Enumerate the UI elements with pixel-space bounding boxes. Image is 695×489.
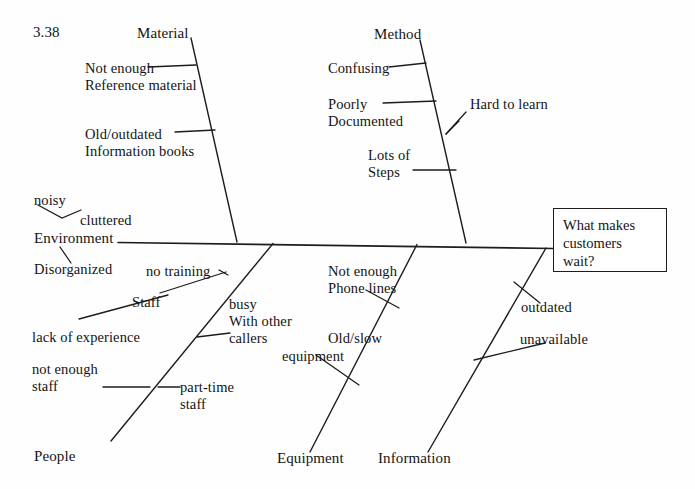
category-label-equipment: Equipment xyxy=(277,450,344,467)
cause-method-poorly-line1: Poorly xyxy=(328,96,367,113)
fishbone-diagram: 3.38 Material Not enough Reference mater… xyxy=(0,0,695,489)
cause-method-lots-of-steps-line1: Lots of xyxy=(368,147,410,164)
category-label-information: Information xyxy=(378,450,451,467)
cause-method-confusing: Confusing xyxy=(328,60,389,77)
category-label-material: Material xyxy=(137,25,189,42)
cause-material-not-enough-line2: Reference material xyxy=(85,77,197,94)
connector-material-not-enough xyxy=(148,65,196,67)
connector-method-confusing xyxy=(389,63,426,67)
cause-environment-cluttered: cluttered xyxy=(80,212,132,229)
cause-people-busy-line2: With other xyxy=(229,313,292,330)
connector-method-poorly xyxy=(383,101,436,103)
effect-box-text: What makes customers wait? xyxy=(563,216,635,270)
cause-method-poorly-line2: Documented xyxy=(328,113,403,130)
cause-equipment-old-slow-line2: equipment xyxy=(282,348,344,365)
cause-people-busy-line1: busy xyxy=(229,296,257,313)
cause-method-lots-of-steps-line2: Steps xyxy=(368,164,400,181)
cause-material-not-enough-line1: Not enough xyxy=(85,60,154,77)
cause-people-not-enough-staff-line2: staff xyxy=(32,378,58,395)
cause-equipment-phone-lines-line2: Phone lines xyxy=(328,280,396,297)
cause-information-unavailable: unavailable xyxy=(520,331,588,348)
figure-id-label: 3.38 xyxy=(33,24,60,41)
cause-people-staff: Staff xyxy=(132,294,160,311)
cause-equipment-old-slow-line1: Old/slow xyxy=(328,330,382,347)
bone-method xyxy=(420,40,466,243)
cause-equipment-phone-lines-line1: Not enough xyxy=(328,263,397,280)
cause-material-old-outdated-line2: Information books xyxy=(85,143,194,160)
cause-people-part-time-staff-line2: staff xyxy=(180,396,206,413)
connector-people-busy xyxy=(197,333,230,337)
category-label-method: Method xyxy=(374,26,421,43)
effect-box: What makes customers wait? xyxy=(553,208,667,272)
cause-information-outdated: outdated xyxy=(521,299,572,316)
cause-environment-noisy: noisy xyxy=(34,192,66,209)
cause-environment-disorganized: Disorganized xyxy=(34,261,112,278)
bone-information xyxy=(428,248,546,452)
cause-people-no-training: no training xyxy=(146,263,210,280)
bone-material xyxy=(191,38,237,242)
category-label-environment: Environment xyxy=(34,230,113,247)
cause-people-not-enough-staff-line1: not enough xyxy=(32,361,98,378)
cause-method-hard-to-learn: Hard to learn xyxy=(470,96,548,113)
spine-line xyxy=(118,243,553,249)
connector-method-hard-to-learn-tail xyxy=(446,121,459,134)
cause-people-part-time-staff-line1: part-time xyxy=(180,379,234,396)
cause-material-old-outdated-line1: Old/outdated xyxy=(85,126,162,143)
cause-people-lack-of-experience: lack of experience xyxy=(32,329,140,346)
cause-people-busy-line3: callers xyxy=(229,330,268,347)
connector-material-old-outdated xyxy=(175,130,215,132)
category-label-people: People xyxy=(34,448,75,465)
